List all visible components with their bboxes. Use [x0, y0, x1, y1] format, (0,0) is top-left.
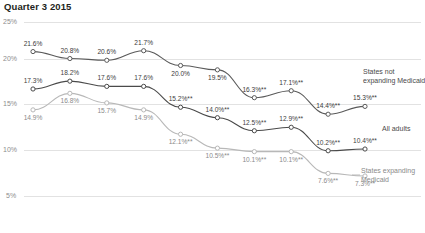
data-point-label: 10.5%** — [205, 152, 229, 159]
data-point-marker[interactable] — [142, 108, 146, 112]
data-point-marker[interactable] — [105, 101, 109, 105]
data-point-label: 19.5% — [208, 74, 227, 81]
data-point-marker[interactable] — [289, 89, 293, 93]
data-point-marker[interactable] — [363, 104, 367, 108]
legend-states-expanding-line1: States expanding — [361, 167, 415, 176]
data-point-marker[interactable] — [68, 91, 72, 95]
legend-all-adults: All adults — [382, 125, 410, 134]
data-point-label: 14.4%** — [316, 102, 340, 109]
data-point-marker[interactable] — [215, 68, 219, 72]
data-point-marker[interactable] — [326, 171, 330, 175]
data-point-label: 10.2%** — [316, 139, 340, 146]
legend-all-adults-text: All adults — [382, 125, 410, 134]
data-point-label: 10.1%** — [279, 156, 303, 163]
data-point-marker[interactable] — [31, 108, 35, 112]
legend-states-expanding-line2: Medicaid — [361, 176, 415, 185]
data-point-label: 10.4%** — [353, 137, 377, 144]
data-point-label: 14.9% — [134, 114, 153, 121]
data-point-label: 17.6% — [97, 74, 116, 81]
data-point-marker[interactable] — [326, 149, 330, 153]
data-point-label: 16.8% — [61, 97, 80, 104]
data-point-marker[interactable] — [68, 79, 72, 83]
data-point-label: 14.9% — [24, 114, 43, 121]
data-point-label: 17.3% — [24, 77, 43, 84]
data-point-label: 12.1%** — [169, 138, 193, 145]
data-point-label: 18.2% — [61, 69, 80, 76]
data-point-marker[interactable] — [252, 96, 256, 100]
data-point-marker[interactable] — [142, 84, 146, 88]
data-point-marker[interactable] — [105, 84, 109, 88]
data-point-marker[interactable] — [215, 146, 219, 150]
data-point-label: 16.3%** — [242, 86, 266, 93]
data-point-label: 20.6% — [97, 48, 116, 55]
data-point-label: 21.7% — [134, 39, 153, 46]
data-point-label: 7.6%** — [318, 177, 338, 184]
data-point-marker[interactable] — [178, 63, 182, 67]
data-point-label: 14.0%** — [205, 106, 229, 113]
data-point-label: 10.1%** — [242, 156, 266, 163]
legend-states-not-expanding-line1: States not — [363, 68, 425, 77]
legend-states-not-expanding: States not expanding Medicaid — [363, 68, 425, 85]
data-point-marker[interactable] — [68, 56, 72, 60]
data-point-marker[interactable] — [142, 49, 146, 53]
legend-states-not-expanding-line2: expanding Medicaid — [363, 77, 425, 86]
data-point-marker[interactable] — [252, 150, 256, 154]
data-point-marker[interactable] — [31, 49, 35, 53]
data-point-marker[interactable] — [326, 112, 330, 116]
data-point-marker[interactable] — [252, 129, 256, 133]
data-point-label: 17.1%** — [279, 79, 303, 86]
data-point-marker[interactable] — [31, 87, 35, 91]
legend-states-expanding: States expanding Medicaid — [361, 167, 415, 184]
data-point-label: 20.0% — [171, 70, 190, 77]
data-point-label: 17.6% — [134, 74, 153, 81]
data-point-marker[interactable] — [363, 147, 367, 151]
data-point-label: 12.9%** — [279, 115, 303, 122]
data-point-label: 21.6% — [24, 40, 43, 47]
data-point-label: 15.3%** — [353, 94, 377, 101]
data-point-label: 20.8% — [61, 47, 80, 54]
data-point-marker[interactable] — [178, 132, 182, 136]
data-point-marker[interactable] — [105, 58, 109, 62]
data-point-label: 15.2%** — [169, 95, 193, 102]
data-point-marker[interactable] — [289, 150, 293, 154]
data-point-label: 15.7% — [97, 107, 116, 114]
data-point-marker[interactable] — [178, 105, 182, 109]
data-point-label: 12.5%** — [242, 119, 266, 126]
data-point-marker[interactable] — [289, 125, 293, 129]
data-point-marker[interactable] — [215, 116, 219, 120]
